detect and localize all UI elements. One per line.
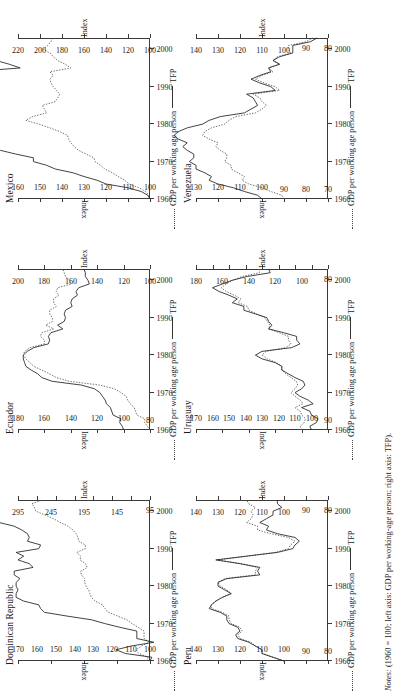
x-axis-tick bbox=[328, 279, 332, 280]
series-tfp bbox=[209, 500, 299, 661]
notes-label: Notes: bbox=[384, 669, 393, 691]
y-axis-tick bbox=[218, 199, 219, 203]
plot-area: 1001201401601802008010012014016018019601… bbox=[18, 269, 150, 430]
y-axis-tick bbox=[18, 199, 19, 203]
x-axis-tick bbox=[328, 623, 332, 624]
panel-peru: Peru 80901001101201301408090100110120130… bbox=[184, 470, 358, 691]
y-axis-tick bbox=[196, 430, 197, 434]
plot-box: 9514519524529510011012013014015016017019… bbox=[18, 500, 150, 661]
legend: GDP per working age person TFP bbox=[347, 69, 356, 229]
legend: GDP per working age person TFP bbox=[169, 300, 178, 460]
x-axis-tick bbox=[150, 585, 154, 586]
legend-tfp-solid-line-icon bbox=[172, 317, 173, 339]
y-axis-tick bbox=[328, 430, 329, 434]
plot-box: 8090100110120130140708090100110120130196… bbox=[196, 38, 328, 199]
y-axis-title: Index bbox=[258, 200, 267, 219]
legend-tfp-solid-line-icon bbox=[350, 86, 351, 108]
x-axis-tick bbox=[150, 392, 154, 393]
x-axis-tick bbox=[328, 161, 332, 162]
panel-grid: Dominican Republic 951451952452951001101… bbox=[6, 8, 358, 691]
y-axis-tick bbox=[284, 199, 285, 203]
y-axis-tick bbox=[44, 430, 45, 434]
x-axis-tick-label: 2000 bbox=[335, 276, 351, 285]
y2-axis-title: Index bbox=[80, 480, 89, 499]
y-axis-tick bbox=[18, 430, 19, 434]
y-axis-tick bbox=[124, 430, 125, 434]
series-tfp bbox=[23, 269, 123, 430]
series-layer bbox=[196, 500, 328, 661]
x-axis-tick bbox=[328, 86, 332, 87]
x-axis-tick bbox=[150, 279, 154, 280]
y2-axis-title: Index bbox=[80, 18, 89, 37]
x-axis-tick bbox=[150, 198, 154, 199]
figure-rotation-wrapper: Dominican Republic 951451952452951001101… bbox=[0, 0, 395, 699]
plot-box: 1001201401601802002201001101201301401501… bbox=[18, 38, 150, 199]
y2-axis-tick bbox=[328, 266, 329, 270]
x-axis-tick bbox=[328, 585, 332, 586]
x-axis-tick bbox=[328, 548, 332, 549]
x-axis-tick bbox=[150, 548, 154, 549]
x-axis-tick-label: 2000 bbox=[335, 45, 351, 54]
y-axis-title: Index bbox=[258, 431, 267, 450]
legend-gdp-label: GDP per working age person bbox=[169, 111, 178, 206]
x-axis-tick bbox=[150, 623, 154, 624]
y2-axis-tick bbox=[150, 266, 151, 270]
panel-mexico: Mexico 100120140160180200220100110120130… bbox=[6, 8, 180, 229]
x-axis-tick-label: 2000 bbox=[157, 45, 173, 54]
legend-gdp-dotted-line-icon bbox=[174, 671, 175, 691]
series-gdp-per-working-age-person bbox=[23, 269, 150, 430]
plot-box: 8010012014016018090100110120130140150160… bbox=[196, 269, 328, 430]
figure-notes: Notes: (1960 = 100; left axis: GDP per w… bbox=[384, 433, 393, 691]
y-axis-tick bbox=[150, 430, 151, 434]
series-gdp-per-working-age-person bbox=[203, 38, 313, 199]
plot-box: 1001201401601802008010012014016018019601… bbox=[18, 269, 150, 430]
series-layer bbox=[18, 500, 150, 661]
series-tfp bbox=[0, 500, 154, 661]
legend-tfp-label: TFP bbox=[347, 300, 356, 314]
y2-axis-tick bbox=[328, 35, 329, 39]
x-axis-tick bbox=[150, 48, 154, 49]
legend-gdp-label: GDP per working age person bbox=[347, 573, 356, 668]
legend: GDP per working age person TFP bbox=[347, 300, 356, 460]
legend-tfp-solid-line-icon bbox=[172, 86, 173, 108]
legend-gdp-dotted-line-icon bbox=[174, 209, 175, 229]
y-axis-tick bbox=[328, 199, 329, 203]
legend-gdp-dotted-line-icon bbox=[352, 209, 353, 229]
y-axis-tick bbox=[18, 661, 19, 665]
series-layer bbox=[196, 269, 328, 430]
legend-gdp-label: GDP per working age person bbox=[347, 111, 356, 206]
x-axis-tick bbox=[328, 510, 332, 511]
legend: GDP per working age person TFP bbox=[169, 69, 178, 229]
y-axis-title: Index bbox=[80, 431, 89, 450]
series-layer bbox=[18, 38, 150, 199]
series-layer bbox=[18, 269, 150, 430]
y-axis-tick bbox=[249, 430, 250, 434]
plot-box: 8090100110120130140809010011012013014019… bbox=[196, 500, 328, 661]
x-axis-tick bbox=[150, 123, 154, 124]
y-axis-tick bbox=[62, 199, 63, 203]
series-tfp bbox=[174, 38, 317, 199]
legend-gdp-dotted-line-icon bbox=[174, 440, 175, 460]
x-axis-tick-label: 2000 bbox=[157, 507, 173, 516]
x-axis-tick bbox=[328, 123, 332, 124]
y-axis-tick bbox=[222, 430, 223, 434]
y2-axis-title: Index bbox=[80, 249, 89, 268]
legend-gdp-dotted-line-icon bbox=[352, 440, 353, 460]
plot-area: 8090100110120130140809010011012013014019… bbox=[196, 500, 328, 661]
y-axis-title: Index bbox=[258, 662, 267, 681]
y-axis-tick bbox=[40, 199, 41, 203]
series-gdp-per-working-age-person bbox=[26, 38, 150, 199]
panel-uruguay: Uruguay 80100120140160180901001101201301… bbox=[184, 239, 358, 460]
x-axis-tick bbox=[150, 429, 154, 430]
y-axis-tick bbox=[275, 430, 276, 434]
x-axis-tick bbox=[328, 354, 332, 355]
series-gdp-per-working-age-person bbox=[32, 500, 149, 661]
notes-text: (1960 = 100; left axis: GDP per working-… bbox=[384, 433, 393, 667]
x-axis-tick bbox=[328, 317, 332, 318]
series-tfp bbox=[213, 269, 319, 430]
y-axis-tick bbox=[128, 199, 129, 203]
y-axis-tick bbox=[302, 430, 303, 434]
legend-gdp-label: GDP per working age person bbox=[169, 573, 178, 668]
x-axis-tick bbox=[150, 86, 154, 87]
y2-axis-title: Index bbox=[258, 249, 267, 268]
